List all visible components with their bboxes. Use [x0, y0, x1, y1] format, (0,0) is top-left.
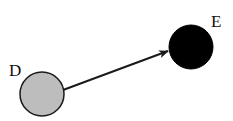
node-d-label: D: [9, 61, 21, 80]
node-e-label: E: [211, 12, 221, 31]
edge-d-to-e-arrow: [63, 51, 168, 90]
node-d-circle: [20, 72, 64, 116]
diagram-canvas: D E: [0, 0, 233, 121]
node-e-circle: [169, 25, 213, 69]
